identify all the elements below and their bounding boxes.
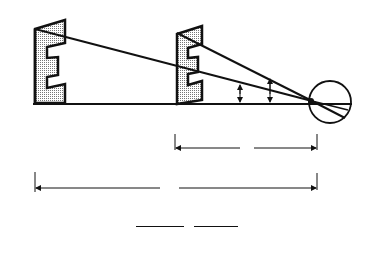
fraction-ab-numerator bbox=[194, 226, 238, 227]
magnification-formula bbox=[0, 224, 370, 260]
fraction-ab bbox=[194, 226, 238, 227]
fraction-tan-numerator bbox=[136, 226, 184, 227]
near-letter-e bbox=[177, 26, 202, 104]
ray-internal-2 bbox=[312, 101, 348, 110]
fraction-tan bbox=[136, 226, 184, 227]
nodal-point bbox=[308, 98, 314, 104]
